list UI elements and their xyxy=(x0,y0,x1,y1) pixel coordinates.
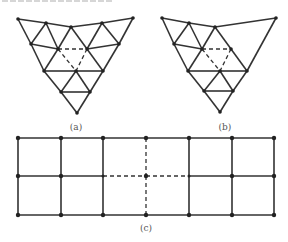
mesh-edge xyxy=(90,71,103,92)
mesh-edge xyxy=(215,18,276,27)
grid-node xyxy=(59,174,63,178)
mesh-node xyxy=(187,21,191,25)
mesh-edge xyxy=(220,91,233,112)
mesh-node xyxy=(186,69,190,73)
mesh-edge xyxy=(71,27,87,49)
grid-node xyxy=(187,213,191,217)
label-c: (c) xyxy=(140,223,152,233)
grid-node xyxy=(144,136,148,140)
mesh-edge xyxy=(44,49,58,71)
mesh-edge xyxy=(247,18,276,71)
mesh-node xyxy=(56,47,60,51)
mesh-edge xyxy=(188,49,202,71)
mesh-node xyxy=(274,16,278,20)
grid-node xyxy=(272,213,276,217)
mesh-node xyxy=(218,110,222,114)
mesh-edge xyxy=(61,92,77,113)
mesh-edge xyxy=(87,44,119,49)
grid-node xyxy=(101,213,105,217)
mesh-node xyxy=(85,47,89,51)
mesh-node xyxy=(74,69,78,73)
mesh-edge xyxy=(71,23,102,27)
mesh-node xyxy=(88,90,92,94)
mesh-edge xyxy=(58,27,71,49)
mesh-edge xyxy=(188,71,204,91)
panel-b-triangle-mesh xyxy=(160,16,278,114)
label-b: (b) xyxy=(219,122,232,132)
mesh-edge xyxy=(233,71,247,91)
mesh-edge xyxy=(31,44,44,71)
mesh-node xyxy=(218,69,222,73)
mesh-edge xyxy=(174,44,202,49)
panel-c-quad-grid xyxy=(16,136,276,217)
mesh-edge xyxy=(204,71,220,91)
mesh-edge-dashed xyxy=(220,49,231,71)
mesh-edge xyxy=(119,18,133,44)
mesh-edge xyxy=(44,71,61,92)
mesh-edge xyxy=(61,71,76,92)
mesh-edge-dashed xyxy=(58,49,76,71)
grid-node xyxy=(59,213,63,217)
mesh-node xyxy=(101,69,105,73)
mesh-edge xyxy=(189,23,215,27)
mesh-node xyxy=(29,42,33,46)
grid-node xyxy=(230,213,234,217)
mesh-edge xyxy=(162,18,174,44)
label-a: (a) xyxy=(70,122,82,132)
mesh-edge xyxy=(102,23,119,44)
mesh-node xyxy=(117,42,121,46)
grid-node xyxy=(102,175,105,178)
mesh-edge xyxy=(87,49,103,71)
mesh-edge xyxy=(215,27,231,49)
mesh-edge xyxy=(87,23,102,49)
grid-node xyxy=(16,136,20,140)
grid-node xyxy=(188,175,191,178)
mesh-edge xyxy=(77,92,90,113)
grid-node xyxy=(144,174,148,178)
mesh-node xyxy=(59,90,63,94)
grid-node xyxy=(16,213,20,217)
mesh-edge xyxy=(103,44,119,71)
mesh-edge xyxy=(18,19,31,44)
mesh-node xyxy=(69,25,73,29)
mesh-edge xyxy=(76,71,90,92)
mesh-edge-dashed xyxy=(202,49,220,71)
mesh-node xyxy=(231,89,235,93)
mesh-edge xyxy=(220,71,233,91)
mesh-node xyxy=(131,16,135,20)
panel-a-triangle-mesh xyxy=(16,16,135,115)
mesh-edge xyxy=(162,18,189,23)
mesh-edge xyxy=(18,19,46,23)
mesh-diagram: (a) (b) (c) xyxy=(0,0,288,242)
mesh-edge xyxy=(46,23,58,49)
mesh-node xyxy=(16,17,20,21)
mesh-edge xyxy=(231,49,247,71)
mesh-node xyxy=(213,25,217,29)
grid-node xyxy=(187,136,191,140)
mesh-node xyxy=(42,69,46,73)
mesh-node xyxy=(75,111,79,115)
mesh-edge-dashed xyxy=(76,49,87,71)
mesh-edge xyxy=(31,23,46,44)
mesh-node xyxy=(245,69,249,73)
mesh-edge xyxy=(102,18,133,23)
mesh-edge xyxy=(202,27,215,49)
mesh-node xyxy=(229,47,233,51)
mesh-edge xyxy=(174,23,189,44)
mesh-edge xyxy=(46,23,71,27)
grid-node xyxy=(272,136,276,140)
mesh-edge xyxy=(189,23,202,49)
grid-node xyxy=(272,174,276,178)
mesh-node xyxy=(100,21,104,25)
mesh-node xyxy=(200,47,204,51)
mesh-edge xyxy=(204,91,220,112)
grid-node xyxy=(59,136,63,140)
mesh-edge xyxy=(174,44,188,71)
mesh-node xyxy=(202,89,206,93)
mesh-edge xyxy=(31,44,58,49)
mesh-node xyxy=(44,21,48,25)
grid-node xyxy=(230,136,234,140)
grid-node xyxy=(16,174,20,178)
grid-node xyxy=(230,174,234,178)
mesh-node xyxy=(172,42,176,46)
